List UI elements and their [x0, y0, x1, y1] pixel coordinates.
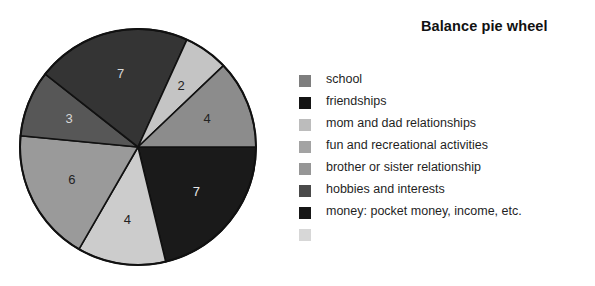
legend-swatch — [299, 185, 311, 197]
legend-swatch — [299, 163, 311, 175]
pie-slice-value-label: 3 — [65, 111, 72, 126]
legend-item-label: fun and recreational activities — [326, 134, 522, 156]
legend-swatch — [299, 207, 311, 219]
pie-slice-value-label: 7 — [193, 184, 200, 199]
pie-slice-value-label: 2 — [177, 78, 184, 93]
pie-chart-region: 7463724 — [0, 0, 290, 286]
pie-slice-value-label: 4 — [203, 111, 210, 126]
pie-chart-svg: 7463724 — [0, 0, 290, 286]
legend-swatch — [299, 229, 311, 241]
legend-swatch — [299, 119, 311, 131]
legend-swatch — [299, 97, 311, 109]
legend-item-label: brother or sister relationship — [326, 156, 522, 178]
legend-item-label: friendships — [326, 90, 522, 112]
legend-swatch — [299, 141, 311, 153]
legend-item-label: hobbies and interests — [326, 178, 522, 200]
pie-slice-value-label: 7 — [117, 66, 124, 81]
legend-item-label: mom and dad relationships — [326, 112, 522, 134]
pie-chart-page: 7463724 Balance pie wheel schoolfriendsh… — [0, 0, 595, 286]
page-title: Balance pie wheel — [421, 18, 548, 34]
legend-panel: Balance pie wheel schoolfriendshipsmom a… — [290, 0, 595, 286]
legend-swatch — [299, 75, 311, 87]
pie-slice-value-label: 4 — [124, 212, 131, 227]
legend-item-label: money: pocket money, income, etc. — [326, 200, 522, 222]
pie-slice-group — [20, 29, 256, 265]
legend-swatch-column — [299, 75, 311, 251]
legend-item-label: school — [326, 68, 522, 90]
legend-label-column: schoolfriendshipsmom and dad relationshi… — [326, 68, 522, 222]
pie-slice-value-label: 6 — [68, 172, 75, 187]
